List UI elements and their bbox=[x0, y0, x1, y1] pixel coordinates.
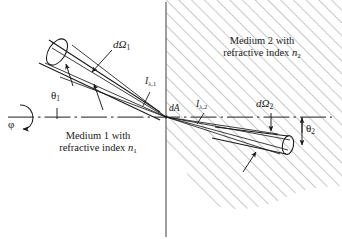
area-element-label: dA bbox=[169, 103, 180, 114]
solid-angle-1-leader-arrow bbox=[92, 50, 112, 72]
medium-2-n-subscript: 2 bbox=[297, 52, 301, 60]
medium-2-line-1: Medium 2 with bbox=[198, 35, 326, 47]
solid-angle-1-symbol: dΩ bbox=[113, 38, 126, 50]
solid-angle-cone-1 bbox=[39, 35, 160, 120]
intensity-2-label: Iλ,2 bbox=[196, 99, 207, 110]
intensity-2-subscript: λ,2 bbox=[199, 103, 207, 110]
solid-angle-2-symbol: dΩ bbox=[256, 97, 269, 109]
theta-1-subscript: 1 bbox=[56, 94, 60, 103]
theta-2-label: θ2 bbox=[306, 122, 315, 137]
medium-1-prefix: refractive index bbox=[59, 142, 128, 153]
medium-2-prefix: refractive index bbox=[223, 47, 292, 58]
refraction-diagram: Medium 2 with refractive index n2 Medium… bbox=[0, 0, 342, 239]
medium-1-caption: Medium 1 with refractive index n1 bbox=[34, 130, 162, 156]
medium-1-line-1: Medium 1 with bbox=[34, 130, 162, 142]
theta-2-subscript: 2 bbox=[311, 127, 315, 136]
solid-angle-2-subscript: 2 bbox=[269, 102, 273, 111]
solid-angle-2-label: dΩ2 bbox=[256, 97, 273, 112]
medium-1-n-subscript: 1 bbox=[133, 147, 137, 155]
medium-2-caption: Medium 2 with refractive index n2 bbox=[198, 35, 326, 61]
area-element-point bbox=[165, 116, 168, 119]
phi-label: φ bbox=[8, 118, 14, 131]
medium-1-line-2: refractive index n1 bbox=[34, 142, 162, 155]
theta-1-label: θ1 bbox=[51, 89, 60, 104]
solid-angle-1-label: dΩ1 bbox=[113, 38, 130, 53]
intensity-1-subscript: λ,1 bbox=[148, 80, 156, 87]
medium-2-line-2: refractive index n2 bbox=[198, 47, 326, 60]
intensity-1-label: Iλ,1 bbox=[145, 76, 156, 87]
solid-angle-1-subscript: 1 bbox=[126, 43, 130, 52]
